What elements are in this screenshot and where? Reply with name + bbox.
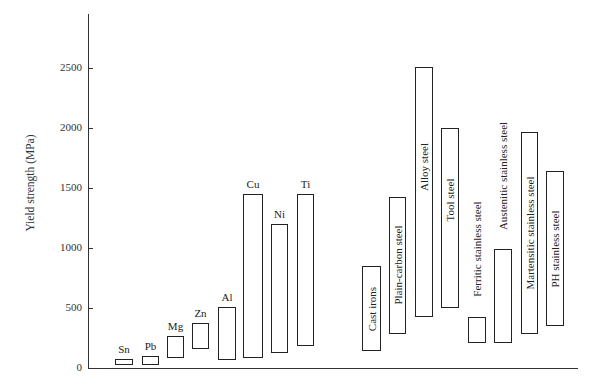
yield-strength-chart: Yield strength (MPa) 0500100015002000250… [0,0,598,388]
bar-label: Austenitic stainless steel [497,122,509,230]
bar-label: Ti [286,178,326,190]
y-tick [88,308,93,309]
y-axis-label: Yield strength (MPa) [24,134,36,231]
y-tick-label: 0 [42,361,82,373]
y-tick-label: 1500 [42,181,82,193]
bar-al [218,307,236,360]
y-tick [88,248,93,249]
bar-label: Al [207,291,247,303]
bar-label: Tool steel [444,179,456,222]
y-tick-label: 1000 [42,241,82,253]
bar-ti [297,194,314,346]
bar-sn [115,359,133,365]
y-tick [88,128,93,129]
x-axis [88,368,578,369]
y-tick-label: 500 [42,301,82,313]
y-tick [88,68,93,69]
bar-label: Ferritic stainless steel [471,201,483,296]
bar-label: Mg [156,320,196,332]
bar-label: Pb [131,340,171,352]
bar-alloy-steel [415,67,433,317]
bar-ferritic-stainless-steel [468,317,486,343]
bar-mg [167,336,184,358]
bar-label: Alloy steel [418,143,430,191]
bar-label: Zn [181,307,221,319]
bar-label: Plain-carbon steel [392,226,404,305]
bar-ni [271,224,288,353]
bar-pb [142,356,159,365]
bar-label: Cu [233,178,273,190]
bar-label: Ni [260,208,300,220]
y-tick-label: 2000 [42,121,82,133]
y-tick-label: 2500 [42,61,82,73]
bar-label: Martensitic stainless steel [524,176,536,289]
bar-label: PH stainless steel [549,210,561,287]
bar-label: Cast irons [366,286,378,330]
y-tick [88,188,93,189]
bar-austenitic-stainless-steel [494,249,512,343]
bar-zn [192,323,209,349]
